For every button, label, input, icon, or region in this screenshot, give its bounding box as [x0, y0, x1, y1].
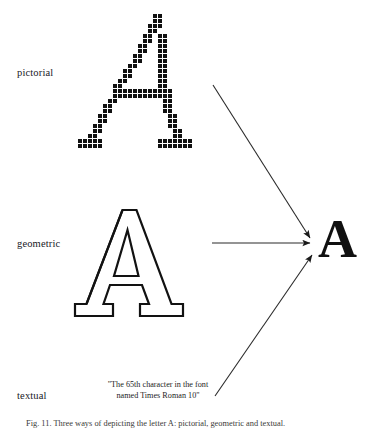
pictorial-pixel — [158, 74, 162, 78]
pictorial-pixel — [143, 49, 147, 53]
pictorial-pixel — [138, 89, 142, 93]
pictorial-pixel — [163, 99, 167, 103]
pictorial-pixel — [108, 99, 112, 103]
pictorial-pixel — [123, 89, 127, 93]
pictorial-pixel — [168, 144, 172, 148]
pictorial-pixel — [138, 94, 142, 98]
pictorial-pixel — [163, 84, 167, 88]
pictorial-pixel — [88, 139, 92, 143]
pictorial-pixel — [118, 84, 122, 88]
pictorial-pixel — [78, 139, 82, 143]
pictorial-pixel — [153, 89, 157, 93]
pictorial-pixel — [123, 69, 127, 73]
pictorial-pixel — [163, 79, 167, 83]
pictorial-pixel — [143, 34, 147, 38]
pictorial-pixel — [163, 59, 167, 63]
pictorial-pixel — [158, 144, 162, 148]
pictorial-pixel — [173, 134, 177, 138]
pictorial-pixel — [168, 104, 172, 108]
pictorial-pixel — [88, 134, 92, 138]
pictorial-pixel — [93, 129, 97, 133]
pictorial-pixel — [83, 144, 87, 148]
pictorial-pixel — [148, 39, 152, 43]
pictorial-pixel — [168, 139, 172, 143]
pictorial-pixel — [138, 59, 142, 63]
pictorial-pixel — [103, 104, 107, 108]
pictorial-pixel — [158, 69, 162, 73]
pictorial-pixel — [143, 89, 147, 93]
pictorial-pixel — [153, 94, 157, 98]
pictorial-letter-a — [78, 14, 174, 160]
pictorial-pixel — [158, 139, 162, 143]
pictorial-pixel — [158, 44, 162, 48]
geometric-letter-a — [70, 208, 188, 320]
pictorial-pixel — [128, 89, 132, 93]
pictorial-pixel — [188, 139, 192, 143]
pictorial-pixel — [173, 139, 177, 143]
pictorial-pixel — [133, 89, 137, 93]
pictorial-pixel — [143, 39, 147, 43]
figure-caption: Fig. 11. Three ways of depicting the let… — [26, 419, 285, 429]
pictorial-pixel — [153, 19, 157, 23]
pictorial-pixel — [98, 119, 102, 123]
pictorial-pixel — [138, 54, 142, 58]
pictorial-pixel — [178, 139, 182, 143]
pictorial-pixel — [163, 109, 167, 113]
pictorial-pixel — [128, 74, 132, 78]
pictorial-pixel — [178, 144, 182, 148]
pictorial-pixel — [163, 64, 167, 68]
pictorial-pixel — [148, 29, 152, 33]
textual-description: "The 65th character in the font named Ti… — [83, 379, 233, 401]
pictorial-pixel — [138, 49, 142, 53]
pictorial-pixel — [163, 34, 167, 38]
pictorial-pixel — [173, 114, 177, 118]
target-letter-a: A — [318, 212, 357, 266]
pictorial-pixel — [173, 119, 177, 123]
pictorial-pixel — [148, 94, 152, 98]
pictorial-pixel — [153, 29, 157, 33]
pictorial-pixel — [113, 99, 117, 103]
pictorial-pixel — [173, 144, 177, 148]
pictorial-pixel — [103, 119, 107, 123]
arrow-textual-to-target — [215, 255, 312, 396]
pictorial-pixel — [133, 94, 137, 98]
pictorial-pixel — [163, 104, 167, 108]
pictorial-pixel — [158, 59, 162, 63]
pictorial-pixel — [158, 14, 162, 18]
pictorial-pixel — [168, 94, 172, 98]
pictorial-pixel — [108, 109, 112, 113]
pictorial-pixel — [188, 144, 192, 148]
pictorial-pixel — [128, 69, 132, 73]
pictorial-pixel — [158, 89, 162, 93]
textual-description-line-1: "The 65th character in the font — [83, 379, 233, 390]
pictorial-pixel — [123, 94, 127, 98]
pictorial-pixel — [163, 94, 167, 98]
pictorial-pixel — [143, 94, 147, 98]
pictorial-pixel — [93, 134, 97, 138]
pictorial-pixel — [163, 44, 167, 48]
pictorial-pixel — [148, 34, 152, 38]
pictorial-pixel — [83, 139, 87, 143]
pictorial-pixel — [133, 59, 137, 63]
pictorial-pixel — [113, 84, 117, 88]
pictorial-pixel — [138, 44, 142, 48]
pictorial-pixel — [178, 134, 182, 138]
pictorial-pixel — [163, 74, 167, 78]
row-label-geometric: geometric — [17, 238, 60, 249]
pictorial-pixel — [93, 139, 97, 143]
pictorial-pixel — [118, 94, 122, 98]
pictorial-pixel — [168, 124, 172, 128]
pictorial-pixel — [158, 79, 162, 83]
pictorial-pixel — [103, 114, 107, 118]
pictorial-pixel — [163, 54, 167, 58]
pictorial-pixel — [158, 24, 162, 28]
pictorial-pixel — [163, 139, 167, 143]
pictorial-pixel — [123, 74, 127, 78]
textual-description-line-2: named Times Roman 10" — [83, 390, 233, 401]
pictorial-pixel — [98, 139, 102, 143]
pictorial-pixel — [148, 24, 152, 28]
pictorial-pixel — [128, 94, 132, 98]
figure-caption-clip: Fig. 11. Three ways of depicting the let… — [0, 419, 370, 430]
pictorial-pixel — [113, 94, 117, 98]
pictorial-pixel — [103, 109, 107, 113]
